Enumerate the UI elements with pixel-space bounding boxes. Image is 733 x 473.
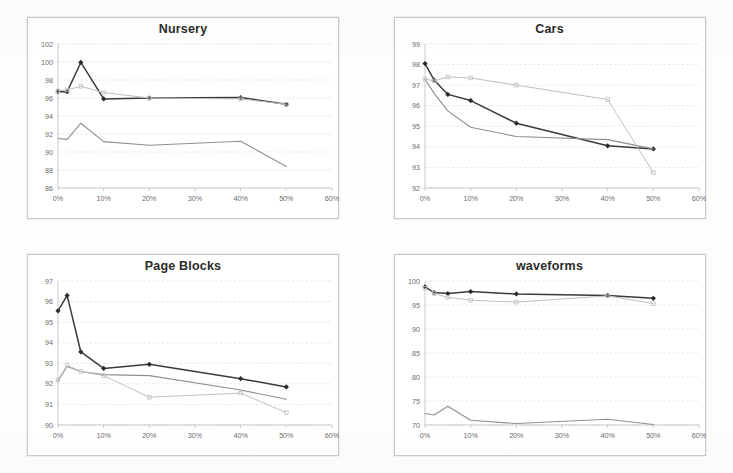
x-axis-tick-label: 30%	[554, 194, 569, 203]
chart-svg-page-blocks: 90919293949596970%10%20%30%40%50%60%	[28, 255, 340, 457]
y-axis-tick-label: 94	[412, 142, 420, 151]
series-line-mid	[58, 123, 286, 166]
series-marker-dark	[650, 295, 655, 300]
x-axis-tick-label: 10%	[96, 194, 111, 203]
chart-svg-waveforms: 7075808590951000%10%20%30%40%50%60%	[395, 255, 707, 457]
y-axis-tick-label: 94	[45, 338, 53, 347]
x-axis-tick-label: 0%	[53, 194, 64, 203]
y-axis-tick-label: 98	[45, 76, 53, 85]
x-axis-tick-label: 0%	[419, 431, 430, 440]
x-axis-tick-label: 60%	[691, 431, 706, 440]
series-line-mid	[425, 79, 653, 149]
y-axis-tick-label: 90	[412, 324, 420, 333]
chart-panel-page-blocks[interactable]: Page Blocks 90919293949596970%10%20%30%4…	[27, 254, 339, 456]
series-line-dark	[425, 64, 653, 149]
series-line-mid	[425, 406, 653, 424]
x-axis-tick-label: 0%	[419, 194, 430, 203]
x-axis-tick-label: 60%	[325, 431, 340, 440]
x-axis-tick-label: 20%	[142, 194, 157, 203]
series-group-light	[423, 75, 655, 174]
chart-cell-3: waveforms 7075808590951000%10%20%30%40%5…	[366, 236, 733, 473]
y-axis-tick-label: 97	[45, 276, 53, 285]
x-axis-tick-label: 60%	[325, 194, 340, 203]
series-line-light	[58, 86, 286, 104]
x-axis-tick-label: 20%	[509, 431, 524, 440]
x-axis-tick-label: 30%	[188, 194, 203, 203]
x-axis-tick-label: 30%	[188, 431, 203, 440]
x-axis-tick-label: 20%	[142, 431, 157, 440]
x-axis-tick-label: 40%	[233, 431, 248, 440]
chart-page: Nursery 868890929496981001020%10%20%30%4…	[0, 0, 733, 473]
x-axis-tick-label: 0%	[53, 431, 64, 440]
y-axis-tick-label: 93	[412, 163, 420, 172]
y-axis-tick-label: 95	[412, 300, 420, 309]
series-group-mid	[58, 366, 286, 399]
chart-svg-nursery: 868890929496981001020%10%20%30%40%50%60%	[28, 18, 340, 220]
y-axis-tick-label: 95	[45, 317, 53, 326]
chart-panel-waveforms[interactable]: waveforms 7075808590951000%10%20%30%40%5…	[394, 254, 706, 456]
chart-panel-nursery[interactable]: Nursery 868890929496981001020%10%20%30%4…	[27, 17, 339, 219]
x-axis-tick-label: 40%	[600, 431, 615, 440]
y-axis-tick-label: 100	[408, 276, 420, 285]
y-axis-tick-label: 98	[412, 60, 420, 69]
y-axis-tick-label: 96	[412, 101, 420, 110]
series-group-mid	[425, 406, 653, 424]
series-group-mid	[58, 123, 286, 166]
y-axis-tick-label: 94	[45, 112, 53, 121]
series-line-dark	[425, 286, 653, 298]
gridlines-group: 86889092949698100102	[41, 40, 332, 193]
x-axis-tick-label: 60%	[691, 194, 706, 203]
series-marker-dark	[468, 288, 473, 293]
series-line-light	[58, 365, 286, 412]
chart-panel-cars[interactable]: Cars 92939495969798990%10%20%30%40%50%60…	[394, 17, 706, 219]
y-axis-tick-label: 91	[45, 400, 53, 409]
y-axis-tick-label: 100	[41, 58, 53, 67]
y-axis-tick-label: 99	[412, 40, 420, 49]
series-marker-dark	[147, 361, 152, 366]
y-axis-tick-label: 80	[412, 372, 420, 381]
series-line-mid	[58, 366, 286, 399]
chart-grid: Nursery 868890929496981001020%10%20%30%4…	[0, 0, 733, 473]
y-axis-tick-label: 93	[45, 358, 53, 367]
chart-cell-1: Cars 92939495969798990%10%20%30%40%50%60…	[366, 0, 733, 236]
y-axis-tick-label: 96	[45, 297, 53, 306]
x-axis-tick-label: 50%	[279, 194, 294, 203]
x-axis-tick-label: 10%	[463, 431, 478, 440]
x-axis-ticks-group: 0%10%20%30%40%50%60%	[53, 188, 340, 203]
series-marker-dark	[513, 291, 518, 296]
x-axis-tick-label: 10%	[96, 431, 111, 440]
y-axis-tick-label: 90	[45, 420, 53, 429]
x-axis-tick-label: 50%	[646, 431, 661, 440]
y-axis-tick-label: 75	[412, 396, 420, 405]
y-axis-tick-label: 92	[412, 184, 420, 193]
x-axis-tick-label: 30%	[554, 431, 569, 440]
chart-svg-cars: 92939495969798990%10%20%30%40%50%60%	[395, 18, 707, 220]
y-axis-tick-label: 90	[45, 148, 53, 157]
chart-cell-0: Nursery 868890929496981001020%10%20%30%4…	[0, 0, 366, 236]
series-group-dark	[55, 292, 289, 389]
y-axis-tick-label: 86	[45, 184, 53, 193]
y-axis-tick-label: 88	[45, 166, 53, 175]
x-axis-tick-label: 40%	[600, 194, 615, 203]
series-marker-dark	[284, 384, 289, 389]
series-marker-dark	[605, 143, 610, 148]
x-axis-tick-label: 40%	[233, 194, 248, 203]
x-axis-ticks-group: 0%10%20%30%40%50%60%	[419, 425, 706, 440]
y-axis-tick-label: 102	[41, 40, 53, 49]
y-axis-tick-label: 95	[412, 122, 420, 131]
x-axis-tick-label: 10%	[463, 194, 478, 203]
series-group-light	[56, 363, 288, 414]
x-axis-tick-label: 50%	[646, 194, 661, 203]
y-axis-tick-label: 85	[412, 348, 420, 357]
x-axis-tick-label: 50%	[279, 431, 294, 440]
series-marker-dark	[513, 121, 518, 126]
y-axis-tick-label: 97	[412, 81, 420, 90]
y-axis-tick-label: 92	[45, 130, 53, 139]
x-axis-ticks-group: 0%10%20%30%40%50%60%	[419, 188, 706, 203]
x-axis-tick-label: 20%	[509, 194, 524, 203]
gridlines-group: 9091929394959697	[45, 276, 332, 429]
y-axis-tick-label: 96	[45, 94, 53, 103]
series-marker-dark	[238, 376, 243, 381]
series-group-dark	[55, 60, 289, 107]
chart-cell-2: Page Blocks 90919293949596970%10%20%30%4…	[0, 236, 366, 473]
